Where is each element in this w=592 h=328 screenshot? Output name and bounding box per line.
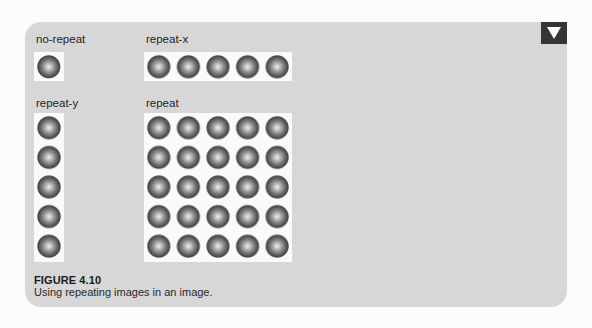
- label-repeat-y: repeat-y: [36, 97, 78, 109]
- demo-repeat-x: [144, 52, 292, 81]
- triangle-down-icon: [547, 27, 561, 39]
- figure-panel: no-repeat repeat-x repeat-y repeat FIGUR…: [25, 22, 567, 307]
- demo-no-repeat: [34, 52, 64, 81]
- label-no-repeat: no-repeat: [36, 33, 85, 45]
- demo-repeat: [144, 113, 292, 262]
- figure-caption-text: Using repeating images in an image.: [34, 286, 213, 298]
- label-repeat: repeat: [146, 97, 179, 109]
- label-repeat-x: repeat-x: [146, 33, 188, 45]
- figure-caption-title: FIGURE 4.10: [34, 274, 101, 286]
- demo-repeat-y: [34, 113, 64, 262]
- corner-tab: [541, 22, 567, 44]
